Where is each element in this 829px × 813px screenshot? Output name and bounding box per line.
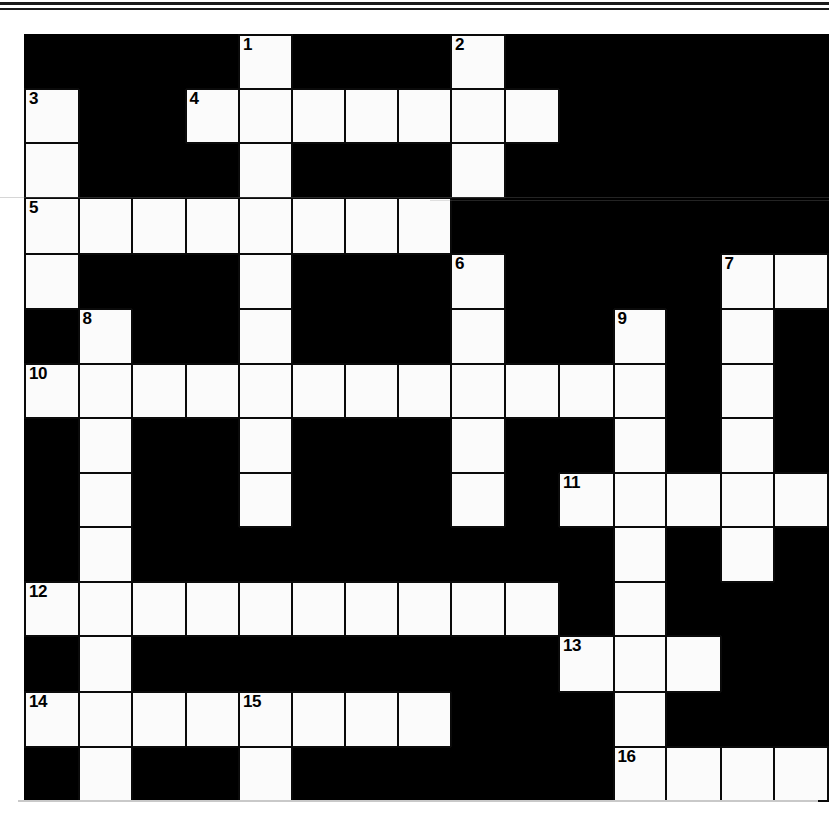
crossword-cell-5[interactable]: 5 xyxy=(25,198,79,253)
crossword-cell[interactable] xyxy=(25,143,79,198)
crossword-cell[interactable] xyxy=(774,473,828,526)
crossword-cell[interactable] xyxy=(505,582,560,636)
crossword-cell[interactable] xyxy=(451,582,505,636)
crossword-cell[interactable] xyxy=(505,364,560,417)
crossword-cell[interactable] xyxy=(398,582,452,636)
crossword-cell[interactable] xyxy=(451,143,505,198)
crossword-cell-13[interactable]: 13 xyxy=(559,636,614,691)
crossword-cell[interactable] xyxy=(614,364,667,417)
crossword-cell[interactable] xyxy=(79,582,133,636)
crossword-cell[interactable] xyxy=(398,692,452,747)
crossword-cell[interactable] xyxy=(345,692,398,747)
crossword-cell-6[interactable]: 6 xyxy=(451,254,505,309)
crossword-cell[interactable] xyxy=(79,473,133,526)
crossword-cell[interactable] xyxy=(292,198,346,253)
crossword-cell-2[interactable]: 2 xyxy=(451,35,505,89)
crossword-cell[interactable] xyxy=(451,309,505,364)
crossword-cell[interactable] xyxy=(186,692,240,747)
crossword-cell[interactable] xyxy=(239,89,292,142)
crossword-cell[interactable] xyxy=(292,692,346,747)
crossword-cell[interactable] xyxy=(239,582,292,636)
crossword-cell[interactable] xyxy=(614,418,667,473)
crossword-cell[interactable] xyxy=(345,198,398,253)
crossword-cell[interactable] xyxy=(292,89,346,142)
crossword-cell-15[interactable]: 15 xyxy=(239,692,292,747)
crossword-block xyxy=(132,89,186,142)
crossword-cell[interactable] xyxy=(79,747,133,801)
crossword-cell[interactable] xyxy=(345,89,398,142)
crossword-cell-14[interactable]: 14 xyxy=(25,692,79,747)
crossword-cell[interactable] xyxy=(239,198,292,253)
crossword-cell[interactable] xyxy=(186,364,240,417)
crossword-cell[interactable] xyxy=(559,364,614,417)
crossword-grid-container[interactable]: 12345678910111213141516 xyxy=(24,34,829,802)
crossword-cell[interactable] xyxy=(239,254,292,309)
crossword-cell-10[interactable]: 10 xyxy=(25,364,79,417)
crossword-cell[interactable] xyxy=(239,143,292,198)
crossword-cell[interactable] xyxy=(79,418,133,473)
crossword-cell[interactable] xyxy=(721,747,775,801)
crossword-cell[interactable] xyxy=(239,473,292,526)
crossword-cell[interactable] xyxy=(239,309,292,364)
crossword-cell[interactable] xyxy=(614,473,667,526)
crossword-cell[interactable] xyxy=(345,582,398,636)
crossword-cell-11[interactable]: 11 xyxy=(559,473,614,526)
crossword-cell[interactable] xyxy=(666,636,721,691)
crossword-cell[interactable] xyxy=(132,364,186,417)
crossword-cell[interactable] xyxy=(614,527,667,582)
crossword-cell[interactable] xyxy=(345,364,398,417)
crossword-cell[interactable] xyxy=(132,692,186,747)
crossword-cell[interactable] xyxy=(451,418,505,473)
crossword-cell[interactable] xyxy=(398,198,452,253)
crossword-cell[interactable] xyxy=(721,309,775,364)
crossword-cell[interactable] xyxy=(186,198,240,253)
crossword-cell[interactable] xyxy=(79,527,133,582)
crossword-cell-9[interactable]: 9 xyxy=(614,309,667,364)
crossword-block xyxy=(721,582,775,636)
crossword-cell[interactable] xyxy=(239,747,292,801)
crossword-cell[interactable] xyxy=(614,636,667,691)
crossword-cell-3[interactable]: 3 xyxy=(25,89,79,142)
crossword-cell[interactable] xyxy=(79,692,133,747)
crossword-block xyxy=(774,364,828,417)
crossword-cell[interactable] xyxy=(451,364,505,417)
crossword-cell[interactable] xyxy=(666,747,721,801)
crossword-cell-1[interactable]: 1 xyxy=(239,35,292,89)
crossword-block xyxy=(79,143,133,198)
crossword-cell[interactable] xyxy=(25,254,79,309)
crossword-grid[interactable]: 12345678910111213141516 xyxy=(24,34,829,802)
crossword-cell[interactable] xyxy=(132,198,186,253)
crossword-cell[interactable] xyxy=(398,89,452,142)
crossword-cell[interactable] xyxy=(721,364,775,417)
crossword-cell[interactable] xyxy=(774,254,828,309)
crossword-cell[interactable] xyxy=(451,473,505,526)
crossword-cell[interactable] xyxy=(666,473,721,526)
crossword-cell[interactable] xyxy=(239,364,292,417)
crossword-cell[interactable] xyxy=(614,582,667,636)
crossword-cell[interactable] xyxy=(451,89,505,142)
crossword-cell-7[interactable]: 7 xyxy=(721,254,775,309)
crossword-cell-8[interactable]: 8 xyxy=(79,309,133,364)
crossword-cell[interactable] xyxy=(79,198,133,253)
crossword-cell[interactable] xyxy=(292,582,346,636)
crossword-cell[interactable] xyxy=(79,636,133,691)
crossword-cell[interactable] xyxy=(721,473,775,526)
crossword-cell[interactable] xyxy=(79,364,133,417)
crossword-cell[interactable] xyxy=(292,364,346,417)
crossword-cell[interactable] xyxy=(774,747,828,801)
crossword-row: 16 xyxy=(25,747,828,801)
crossword-cell[interactable] xyxy=(186,582,240,636)
crossword-cell-4[interactable]: 4 xyxy=(186,89,240,142)
crossword-cell-12[interactable]: 12 xyxy=(25,582,79,636)
crossword-cell[interactable] xyxy=(614,692,667,747)
crossword-cell[interactable] xyxy=(721,418,775,473)
clue-number-14: 14 xyxy=(29,693,47,711)
crossword-cell[interactable] xyxy=(239,418,292,473)
crossword-cell-16[interactable]: 16 xyxy=(614,747,667,801)
crossword-cell[interactable] xyxy=(505,89,560,142)
crossword-cell[interactable] xyxy=(398,364,452,417)
crossword-block xyxy=(451,636,505,691)
crossword-cell[interactable] xyxy=(721,527,775,582)
crossword-cell[interactable] xyxy=(132,582,186,636)
crossword-block xyxy=(505,418,560,473)
